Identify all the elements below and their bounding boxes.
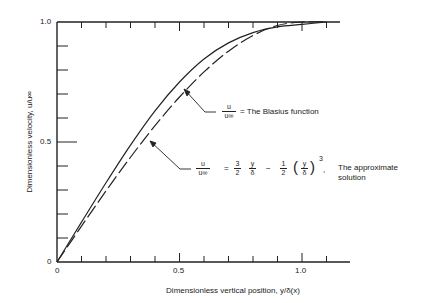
approx-label-line1: The approximate bbox=[338, 163, 398, 172]
approx-rparen: ) bbox=[310, 158, 315, 175]
blasius-label: = The Blasius function bbox=[240, 107, 319, 116]
approx-minus: − bbox=[266, 164, 271, 173]
frac-num: u bbox=[227, 103, 231, 111]
blasius-fraction: u u∞ bbox=[222, 103, 236, 120]
approx-fraction-3-2: 32 bbox=[234, 160, 241, 177]
approx-fraction-1-2: 12 bbox=[280, 160, 287, 177]
approx-comma: , bbox=[323, 165, 325, 174]
approx-exponent: 3 bbox=[319, 155, 323, 162]
approximate-solution-curve bbox=[57, 22, 327, 262]
y-tick-label-1: 1.0 bbox=[40, 17, 51, 26]
y-tick-label-0: 0 bbox=[47, 257, 51, 266]
approx-fraction-y-delta: yδ bbox=[249, 160, 256, 177]
blasius-curve bbox=[57, 22, 327, 262]
approx-label-line2: solution bbox=[338, 173, 366, 182]
y-axis-label: Dimensionless velocity, u/u∞ bbox=[25, 91, 34, 193]
frac-den: u∞ bbox=[225, 112, 234, 120]
x-tick-label-10: 1.0 bbox=[295, 266, 306, 275]
x-axis-label: Dimensionless vertical position, y/δ(x) bbox=[166, 286, 300, 295]
approx-leader-line bbox=[150, 141, 191, 169]
plot-area bbox=[0, 0, 426, 303]
approx-fraction-y-delta-2: yδ bbox=[301, 160, 308, 177]
x-tick-label-05: 0.5 bbox=[173, 266, 184, 275]
approx-equals: = bbox=[224, 164, 229, 173]
x-tick-label-0: 0 bbox=[55, 266, 59, 275]
y-tick-label-05: 0.5 bbox=[40, 137, 51, 146]
approx-fraction-u: uu∞ bbox=[196, 160, 210, 177]
approx-lparen: ( bbox=[293, 158, 298, 175]
